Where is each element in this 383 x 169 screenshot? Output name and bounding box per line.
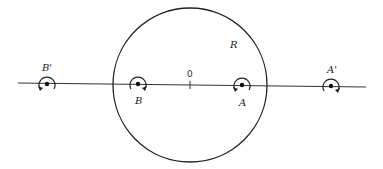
point-label: A' (326, 64, 337, 75)
point-label: A (238, 97, 246, 108)
diagram-canvas: 0 R B' B A A' (0, 0, 383, 169)
point-dot (240, 83, 244, 87)
origin-label: 0 (187, 69, 193, 79)
arrowhead-icon (38, 86, 43, 91)
point-a: A (233, 78, 250, 108)
point-dot (136, 82, 140, 86)
point-dot (329, 84, 333, 88)
point-b: B (130, 77, 147, 106)
point-label: B' (41, 62, 52, 73)
arrowhead-icon (142, 86, 147, 91)
arrowhead-icon (233, 87, 238, 92)
point-dot (45, 82, 49, 86)
point-b-prime: B' (38, 62, 55, 91)
point-label: B (134, 95, 142, 106)
real-axis-line (18, 83, 366, 87)
region-label: R (229, 39, 238, 50)
arrowhead-icon (335, 88, 340, 93)
point-a-prime: A' (323, 64, 340, 93)
